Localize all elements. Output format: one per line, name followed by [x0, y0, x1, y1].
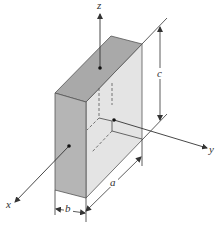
x-axis-origin-dot: [67, 144, 71, 148]
x-axis-label: x: [5, 198, 11, 210]
dimension-b-label: b: [65, 202, 71, 214]
y-axis-origin-dot: [112, 118, 116, 122]
dimension-a-label: a: [110, 176, 116, 188]
dimension-c-label: c: [157, 67, 162, 79]
y-axis-label: y: [208, 143, 214, 155]
block-diagram: z y x c a b: [0, 0, 222, 226]
z-axis-origin-dot: [98, 66, 102, 70]
z-axis-label: z: [96, 0, 102, 11]
